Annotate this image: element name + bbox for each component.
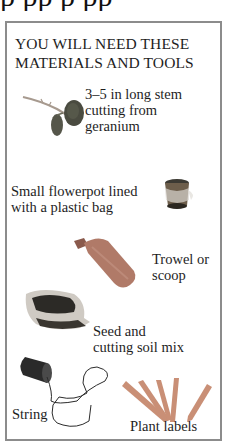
heading-line-2: MATERIALS AND TOOLS [15,53,194,72]
materials-panel: YOU WILL NEED THESE MATERIALS AND TOOLS … [5,21,222,441]
soil-bag-icon [22,288,92,333]
item-cutting-label: 3–5 in long stem cutting from geranium [85,86,182,134]
item-trowel-label: Trowel or scoop [152,251,209,283]
trowel-icon [72,235,142,295]
cropped-descenders: p pp p pp [0,0,225,8]
cropped-text-above: p pp p pp [0,0,225,11]
panel-heading: YOU WILL NEED THESE MATERIALS AND TOOLS [15,34,194,72]
item-string-label: String [12,406,47,422]
flowerpot-icon [160,176,200,216]
item-flowerpot-label: Small flowerpot lined with a plastic bag [11,183,137,215]
heading-line-1: YOU WILL NEED THESE [15,34,194,53]
item-soil-label: Seed and cutting soil mix [93,323,184,355]
geranium-cutting-icon [23,93,93,143]
item-labels-label: Plant labels [130,418,197,434]
